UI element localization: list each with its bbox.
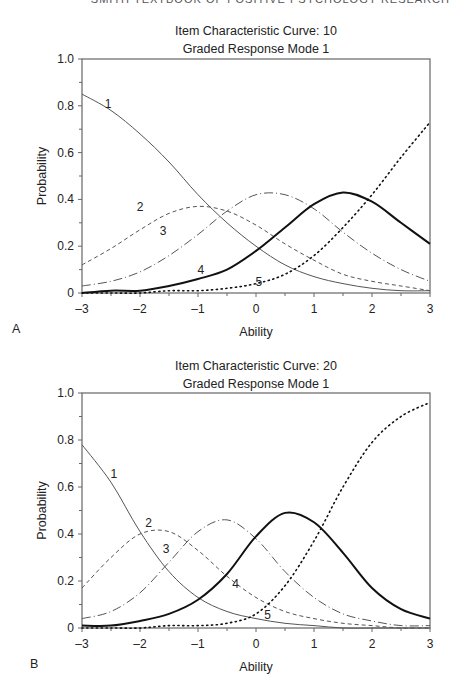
- x-tick-label: 3: [427, 637, 434, 651]
- y-tick-label: 0.2: [57, 574, 74, 588]
- x-axis-label: Ability: [239, 660, 273, 674]
- x-tick-label: 1: [311, 637, 318, 651]
- curve-label: 5: [264, 608, 271, 622]
- x-tick-label: 0: [253, 637, 260, 651]
- x-tick-label: –1: [191, 637, 205, 651]
- chart-plot: –3–2–1012300.20.40.60.81.0AbilityProbabi…: [0, 0, 454, 681]
- y-axis-label: Probability: [35, 481, 49, 540]
- x-tick-label: –3: [75, 637, 89, 651]
- y-tick-label: 0.8: [57, 433, 74, 447]
- x-axis-ticks: –3–2–10123: [75, 628, 433, 651]
- curve-label: 1: [111, 467, 118, 481]
- panel-letter: B: [30, 657, 38, 671]
- curve-category-4: [82, 512, 430, 626]
- y-tick-label: 0.4: [57, 527, 74, 541]
- curve-label: 4: [232, 577, 239, 591]
- chart-panel-b: Item Characteristic Curve: 20 Graded Res…: [0, 0, 454, 681]
- y-tick-label: 0: [67, 621, 74, 635]
- curve-label: 3: [163, 542, 170, 556]
- curve-label: 2: [145, 516, 152, 530]
- x-tick-label: 2: [369, 637, 376, 651]
- y-axis-ticks: 00.20.40.60.81.0: [57, 386, 82, 635]
- curve-category-2: [82, 530, 430, 628]
- y-tick-label: 0.6: [57, 480, 74, 494]
- x-tick-label: –2: [133, 637, 147, 651]
- y-tick-label: 1.0: [57, 386, 74, 400]
